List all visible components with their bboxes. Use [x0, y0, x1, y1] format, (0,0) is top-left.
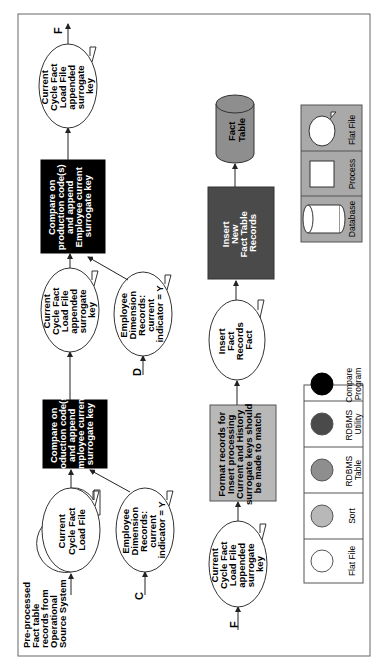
flat-file-insert-fact-records: Insert Fact Records Fact — [209, 300, 265, 380]
legend-item-database: Database — [303, 201, 357, 238]
flat-file-current-cycle-appended-key: Current Cycle Fact Load File appended su… — [209, 521, 267, 607]
etl-flow-diagram: Pre-processed Fact table records from Op… — [0, 0, 383, 668]
svg-text:Employee Dimension: Employee Dimension Records: current indi… — [118, 285, 165, 343]
svg-text:Flat File: Flat File — [347, 115, 357, 146]
compare-program-process-2: Compare on production code(s) and append… — [41, 160, 105, 253]
flat-file-employee-dimension-records-2: Employee Dimension Records: current indi… — [114, 272, 172, 356]
svg-text:Process: Process — [347, 159, 357, 190]
legend-shapes: Database Process Flat File — [301, 105, 362, 242]
flat-file-employee-dimension-records-1: Employee Dimension Records: current indi… — [116, 488, 174, 572]
compare-program-process-1: Compare on production code(s) and append… — [43, 390, 107, 479]
connector-d: D — [131, 368, 143, 376]
legend-colors: Flat File Sort RDBMS Table RDBMS Utility — [304, 365, 363, 583]
svg-text:Format records for Ins: Format records for Insert processing Cur… — [216, 401, 263, 505]
rdbms-table-fact-table: Fact Table — [210, 95, 258, 163]
svg-text:Sort: Sort — [347, 508, 357, 524]
svg-text:Flat File: Flat File — [347, 546, 357, 577]
connector-f-out: F — [52, 27, 64, 34]
svg-text:Employee Dimension: Employee Dimension Records: current indi… — [120, 501, 167, 559]
rdbms-utility-insert-new-fact-records: Insert New Fact Table Records — [208, 187, 274, 279]
source-system-label: Pre-processed Fact table records from Op… — [21, 579, 68, 648]
connector-c: C — [133, 592, 145, 600]
sort-process-format-records: Format records for Insert processing Cur… — [210, 401, 276, 505]
svg-text:Compare Program: Compare Program — [344, 365, 363, 402]
svg-text:Current Cycle Fact: Current Cycle Fact Load File — [56, 505, 87, 555]
flat-file-appended-surrogate-key-1: Current Cycle Fact Load File appended su… — [41, 268, 99, 352]
svg-text:Pre-processed Fact table: Pre-processed Fact table records from Op… — [21, 579, 68, 648]
svg-text:Database: Database — [347, 201, 357, 238]
legend-item-process: Process — [310, 159, 357, 190]
svg-text:Fact Table: Fact Table — [226, 118, 247, 142]
flat-file-appended-surrogate-key-2: Current Cycle Fact Load File appended su… — [39, 44, 97, 128]
